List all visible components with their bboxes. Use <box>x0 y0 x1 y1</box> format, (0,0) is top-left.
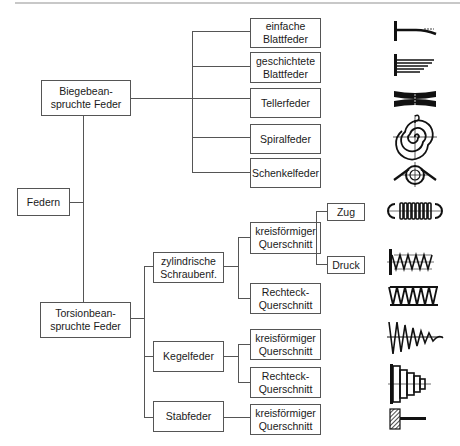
conical-spring-rect-icon <box>387 362 435 406</box>
node-schenkelfeder: Schenkelfeder <box>250 158 321 188</box>
connector <box>144 356 153 357</box>
connector <box>70 202 83 203</box>
leaf-spring-simple-icon <box>390 18 440 42</box>
node-kegelfeder: Kegelfeder <box>153 341 224 372</box>
node-zylindrische-schraubenfeder: zylindrische Schraubenf. <box>153 252 224 283</box>
connector <box>238 237 239 299</box>
node-torsionbeanspruchte-feder: Torsionbean- spruchte Feder <box>40 302 131 338</box>
connector <box>238 382 250 383</box>
node-stab-kreisfoermiger-querschnitt: kreisförmiger Querschnitt <box>250 404 321 435</box>
leaf-spring-layered-icon <box>390 52 440 78</box>
conical-spring-round-icon <box>385 316 445 358</box>
connector <box>131 98 192 99</box>
connector <box>238 344 250 345</box>
torsion-bar-icon <box>387 407 433 431</box>
connector <box>83 115 84 303</box>
connector <box>192 66 250 67</box>
connector <box>238 298 250 299</box>
connector <box>192 31 193 173</box>
connector <box>238 344 239 383</box>
connector <box>224 356 238 357</box>
node-zyl-kreisfoermiger-querschnitt: kreisförmiger Querschnitt <box>250 222 321 254</box>
node-geschichtete-blattfeder: geschichtete Blattfeder <box>250 52 321 83</box>
node-kegel-rechteck-querschnitt: Rechteck- Querschnitt <box>250 367 321 398</box>
node-zug: Zug <box>327 203 365 221</box>
node-biegebeanspruchte-feder: Biegebean- spruchte Feder <box>41 80 131 116</box>
connector <box>192 98 250 99</box>
connector <box>192 172 250 173</box>
compression-spring-icon <box>386 247 436 277</box>
connector <box>192 31 250 32</box>
spiral-spring-icon <box>389 110 441 160</box>
node-kegel-kreisfoermiger-querschnitt: kreisförmiger Querschnitt <box>250 329 321 360</box>
node-druck: Druck <box>327 256 365 274</box>
connector <box>224 266 238 267</box>
torsion-leg-spring-icon <box>390 160 440 188</box>
disc-spring-icon <box>392 88 438 112</box>
node-tellerfeder: Tellerfeder <box>250 88 321 118</box>
rectangular-coil-spring-icon <box>386 283 442 309</box>
connector <box>192 137 250 138</box>
connector <box>224 417 250 418</box>
node-zyl-rechteck-querschnitt: Rechteck- Querschnitt <box>250 283 321 314</box>
connector <box>144 266 153 267</box>
node-spiralfeder: Spiralfeder <box>250 124 321 154</box>
tension-spring-icon <box>385 198 445 224</box>
top-divider <box>15 2 460 4</box>
connector <box>316 211 317 265</box>
node-stabfeder: Stabfeder <box>153 401 224 432</box>
node-federn: Federn <box>17 188 70 216</box>
connector <box>144 266 145 418</box>
connector <box>238 237 250 238</box>
node-einfache-blattfeder: einfache Blattfeder <box>250 18 321 48</box>
connector <box>316 211 327 212</box>
connector <box>316 264 327 265</box>
connector <box>131 318 144 319</box>
connector <box>144 417 153 418</box>
